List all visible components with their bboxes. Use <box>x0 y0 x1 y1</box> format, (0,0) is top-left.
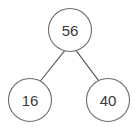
node-left-child: 16 <box>9 79 52 122</box>
edge-root-to-right-child <box>76 51 98 81</box>
binary-tree-diagram: 56 16 40 <box>0 0 137 128</box>
node-right-child-label: 40 <box>100 92 117 109</box>
node-root-label: 56 <box>62 22 79 39</box>
node-left-child-label: 16 <box>22 92 39 109</box>
edge-root-to-left-child <box>41 51 65 81</box>
tree-canvas: 56 16 40 <box>0 0 137 128</box>
node-right-child: 40 <box>87 79 130 122</box>
node-root: 56 <box>49 9 92 52</box>
